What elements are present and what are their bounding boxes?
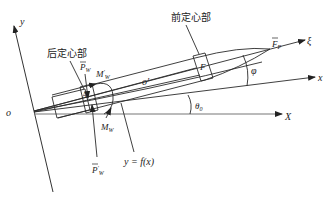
front-F-label: F <box>199 62 206 72</box>
theta0-label: θ0 <box>195 101 202 112</box>
front-leader <box>186 25 199 54</box>
y-axis-label: y <box>19 16 25 27</box>
inner-line-1 <box>34 68 196 111</box>
Mw-prime-label: M′W <box>95 69 111 80</box>
projectile-bore-diagram: y o X x ξ F 前定心部 后定心部 PW A M′W MW <box>0 0 332 203</box>
curve-equation-label: y = f(x) <box>123 156 155 168</box>
front-centering-label[interactable]: 前定心部 <box>171 11 211 23</box>
theta0-arc <box>188 95 191 114</box>
curve-leader <box>121 103 134 152</box>
X-axis-label: X <box>284 111 292 122</box>
Mw-label: MW <box>100 122 115 133</box>
rear-centering-label[interactable]: 后定心部 <box>47 47 87 59</box>
Fp-label: FP <box>271 39 282 50</box>
phi-label: φ <box>251 65 257 76</box>
origin-label: o <box>6 107 11 118</box>
phi-arc <box>243 55 248 86</box>
x-axis-label: x <box>317 72 323 83</box>
Pw-label: PW <box>79 62 92 73</box>
Mw-arrow <box>106 108 111 118</box>
body-upper-edge <box>52 58 195 95</box>
o-prime-label: o′ <box>142 76 150 87</box>
Pw-prime-arrow <box>92 105 97 157</box>
xi-axis-label: ξ <box>307 35 312 47</box>
A-point-label: A <box>81 91 87 100</box>
Pw-prime-label: P′W <box>91 165 105 176</box>
